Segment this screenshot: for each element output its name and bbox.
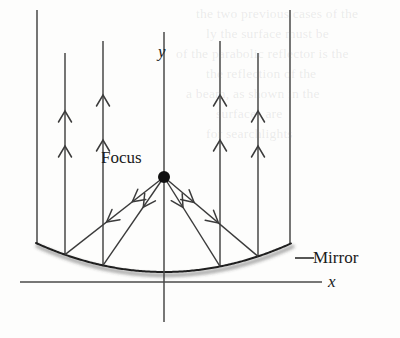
reflected-ray	[65, 177, 164, 255]
focus-dot	[158, 171, 170, 183]
reflected-ray	[164, 177, 258, 256]
focus-label: Focus	[101, 148, 142, 168]
mirror-shadow-path	[38, 246, 293, 275]
reflected-ray-group	[65, 177, 258, 266]
focus-point	[158, 171, 170, 183]
parabolic-mirror-figure: Focus Mirror y x the two previous cases …	[0, 0, 400, 338]
mirror-label: Mirror	[313, 248, 358, 268]
mirror-shadow	[38, 246, 293, 275]
x-axis-label: x	[328, 272, 336, 292]
y-axis-label: y	[158, 42, 166, 62]
figure-canvas	[0, 0, 400, 338]
